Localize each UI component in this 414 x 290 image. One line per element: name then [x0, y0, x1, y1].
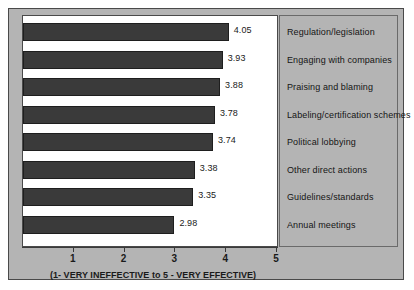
- x-axis-caption: (1- VERY INEFFECTIVE to 5 - VERY EFFECTI…: [22, 270, 284, 280]
- bar-value-label: 2.98: [179, 218, 197, 228]
- bar-row: 4.05: [23, 19, 277, 46]
- category-label: Political lobbying: [287, 137, 356, 147]
- bar-chart-figure: 4.053.933.883.783.743.383.352.98 Regulat…: [0, 0, 414, 290]
- bar-value-label: 3.38: [200, 163, 218, 173]
- bar-row: 3.35: [23, 184, 277, 211]
- bar-value-label: 3.35: [198, 190, 216, 200]
- category-label: Praising and blaming: [287, 82, 373, 92]
- bar: [23, 161, 195, 179]
- x-axis-tick-label: 5: [273, 253, 279, 264]
- chart-outer-frame: 4.053.933.883.783.743.383.352.98 Regulat…: [8, 8, 404, 280]
- bar-row: 3.74: [23, 129, 277, 156]
- bar-row: 3.88: [23, 74, 277, 101]
- x-axis-line: [22, 247, 278, 248]
- bar-row: 2.98: [23, 212, 277, 239]
- bar: [23, 106, 215, 124]
- category-legend-panel: Regulation/legislationEngaging with comp…: [279, 15, 398, 247]
- x-axis-tick-label: 3: [172, 253, 178, 264]
- x-axis-tick-label: 2: [121, 253, 127, 264]
- x-axis-tick-label: 4: [222, 253, 228, 264]
- x-axis-tick: [73, 247, 74, 252]
- bar-row: 3.93: [23, 47, 277, 74]
- x-axis-tick: [225, 247, 226, 252]
- x-axis-tick: [124, 247, 125, 252]
- category-label: Annual meetings: [287, 220, 356, 230]
- plot-area: 4.053.933.883.783.743.383.352.98: [22, 15, 278, 247]
- bar-row: 3.38: [23, 157, 277, 184]
- bar-value-label: 3.78: [220, 108, 238, 118]
- x-axis-tick: [276, 247, 277, 252]
- x-axis-tick-label: 1: [70, 253, 76, 264]
- bar: [23, 78, 220, 96]
- category-label: Regulation/legislation: [287, 27, 375, 37]
- bar: [23, 188, 193, 206]
- category-label: Engaging with companies: [287, 55, 392, 65]
- bar: [23, 216, 174, 234]
- bar: [23, 51, 223, 69]
- bar-value-label: 4.05: [234, 25, 252, 35]
- bar-value-label: 3.74: [218, 135, 236, 145]
- bar-value-label: 3.88: [225, 80, 243, 90]
- category-label: Labeling/certification schemes: [287, 110, 411, 120]
- x-axis-tick: [174, 247, 175, 252]
- bar: [23, 133, 213, 151]
- category-label: Other direct actions: [287, 165, 367, 175]
- category-label: Guidelines/standards: [287, 192, 374, 202]
- bars-layer: 4.053.933.883.783.743.383.352.98: [23, 16, 277, 246]
- bar: [23, 23, 229, 41]
- bar-value-label: 3.93: [228, 53, 246, 63]
- bar-row: 3.78: [23, 102, 277, 129]
